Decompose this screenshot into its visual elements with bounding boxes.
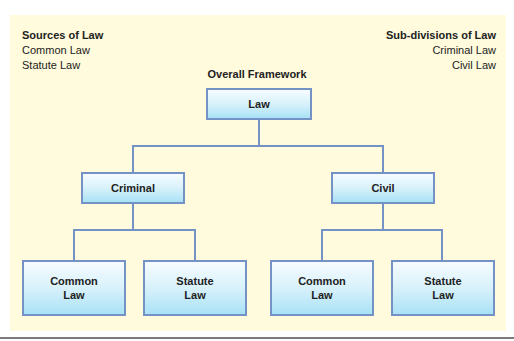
diagram-title: Overall Framework bbox=[0, 68, 514, 80]
node-label-line: Common bbox=[50, 274, 98, 288]
connector-criminal-down bbox=[132, 203, 134, 230]
node-criminal-label: Criminal bbox=[111, 181, 155, 195]
node-label-line: Statute bbox=[424, 274, 461, 288]
bottom-divider bbox=[0, 337, 514, 339]
connector-civil-common bbox=[321, 229, 323, 260]
node-civil: Civil bbox=[331, 172, 435, 204]
node-civil-label: Civil bbox=[371, 181, 394, 195]
connector-criminal-common bbox=[73, 229, 75, 260]
node-law: Law bbox=[206, 88, 312, 120]
connector-criminal-horizontal bbox=[73, 229, 196, 231]
sources-item: Common Law bbox=[22, 43, 103, 58]
node-label-line: Law bbox=[298, 288, 346, 302]
node-civil-statute-law: Statute Law bbox=[391, 260, 495, 316]
subdivisions-item: Criminal Law bbox=[386, 43, 496, 58]
subdivisions-legend: Sub-divisions of Law Criminal Law Civil … bbox=[386, 28, 496, 73]
connector-civil-up bbox=[382, 145, 384, 172]
sources-legend: Sources of Law Common Law Statute Law bbox=[22, 28, 103, 73]
connector-civil-down bbox=[382, 203, 384, 230]
node-criminal-statute-law: Statute Law bbox=[143, 260, 247, 316]
node-criminal-common-law: Common Law bbox=[22, 260, 126, 316]
node-law-label: Law bbox=[248, 97, 269, 111]
sources-heading: Sources of Law bbox=[22, 28, 103, 43]
node-criminal: Criminal bbox=[81, 172, 185, 204]
node-label-line: Common bbox=[298, 274, 346, 288]
node-label-line: Law bbox=[424, 288, 461, 302]
node-label-line: Law bbox=[50, 288, 98, 302]
node-label-line: Statute bbox=[176, 274, 213, 288]
connector-criminal-up bbox=[132, 145, 134, 172]
node-civil-common-law: Common Law bbox=[270, 260, 374, 316]
connector-level1-horizontal bbox=[132, 145, 384, 147]
node-label-line: Law bbox=[176, 288, 213, 302]
connector-criminal-statute bbox=[194, 229, 196, 260]
connector-root-down bbox=[258, 119, 260, 146]
subdivisions-heading: Sub-divisions of Law bbox=[386, 28, 496, 43]
connector-civil-horizontal bbox=[321, 229, 443, 231]
connector-civil-statute bbox=[441, 229, 443, 260]
